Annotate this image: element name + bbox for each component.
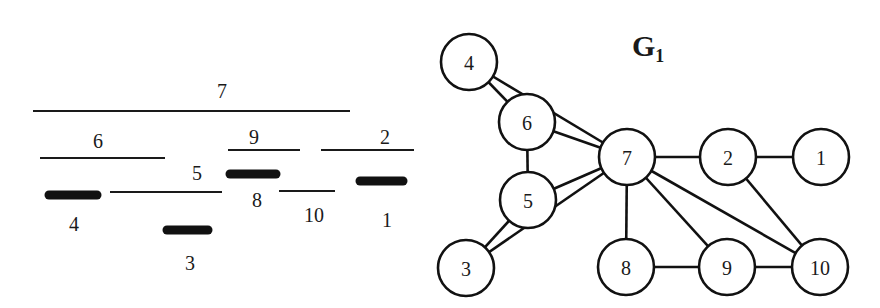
node-label: 9 bbox=[722, 257, 732, 279]
node-9: 9 bbox=[699, 239, 755, 295]
node-2: 2 bbox=[700, 129, 756, 185]
node-label: 1 bbox=[816, 147, 826, 169]
node-6: 6 bbox=[499, 94, 555, 150]
interval-label: 10 bbox=[304, 204, 324, 226]
interval-graph-figure: 76925841013 46753218910 G1 bbox=[0, 0, 880, 308]
interval-3: 3 bbox=[167, 230, 208, 274]
interval-label: 1 bbox=[382, 209, 392, 231]
node-3: 3 bbox=[438, 240, 494, 296]
node-8: 8 bbox=[598, 239, 654, 295]
interval-label: 4 bbox=[69, 213, 79, 235]
node-1: 1 bbox=[793, 129, 849, 185]
figure: 76925841013 46753218910 G1 bbox=[0, 0, 880, 308]
node-label: 6 bbox=[522, 112, 532, 134]
node-5: 5 bbox=[500, 172, 556, 228]
interval-representation: 76925841013 bbox=[33, 80, 414, 274]
node-10: 10 bbox=[792, 239, 848, 295]
interval-8: 8 bbox=[230, 174, 276, 211]
graph-nodes: 46753218910 bbox=[438, 34, 849, 296]
interval-9: 9 bbox=[228, 126, 300, 150]
node-label: 10 bbox=[810, 257, 830, 279]
node-7: 7 bbox=[599, 129, 655, 185]
interval-6: 6 bbox=[40, 130, 165, 158]
interval-label: 5 bbox=[192, 162, 202, 184]
interval-label: 9 bbox=[249, 126, 259, 148]
interval-4: 4 bbox=[49, 195, 97, 235]
interval-label: 2 bbox=[380, 126, 390, 148]
interval-1: 1 bbox=[360, 181, 403, 231]
interval-label: 6 bbox=[93, 130, 103, 152]
interval-label: 3 bbox=[185, 252, 195, 274]
node-label: 2 bbox=[723, 147, 733, 169]
node-4: 4 bbox=[441, 34, 497, 90]
node-label: 7 bbox=[622, 147, 632, 169]
interval-2: 2 bbox=[321, 126, 414, 150]
interval-label: 7 bbox=[217, 80, 227, 102]
graph-title-subscript: 1 bbox=[655, 46, 664, 66]
interval-7: 7 bbox=[33, 80, 350, 111]
graph-title: G1 bbox=[632, 29, 664, 66]
node-label: 8 bbox=[621, 257, 631, 279]
graph-title-main: G bbox=[632, 29, 655, 62]
node-label: 3 bbox=[461, 258, 471, 280]
interval-5: 5 bbox=[110, 162, 222, 192]
interval-10: 10 bbox=[279, 191, 335, 226]
node-label: 4 bbox=[464, 52, 474, 74]
node-label: 5 bbox=[523, 190, 533, 212]
interval-label: 8 bbox=[252, 189, 262, 211]
